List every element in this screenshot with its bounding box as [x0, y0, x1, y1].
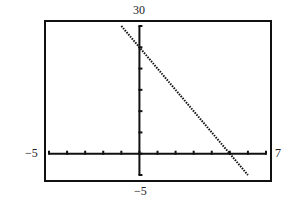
graph-window	[0, 0, 282, 202]
ymin-label: −5	[134, 184, 147, 199]
xmin-label: −5	[25, 146, 38, 161]
ymax-label: 30	[133, 3, 145, 18]
xmax-label: 7	[275, 146, 281, 161]
axes	[49, 26, 266, 175]
viewing-window-frame	[45, 21, 271, 181]
